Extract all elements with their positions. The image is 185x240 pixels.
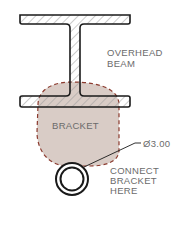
bracket-label: BRACKET	[52, 120, 99, 131]
connection-ring-inner	[61, 168, 84, 191]
connect-label-line3: HERE	[110, 185, 138, 196]
dimension-label: Ø3.00	[143, 138, 170, 149]
beam-label-line1: OVERHEAD	[107, 47, 163, 58]
beam-label-line2: BEAM	[107, 58, 135, 69]
